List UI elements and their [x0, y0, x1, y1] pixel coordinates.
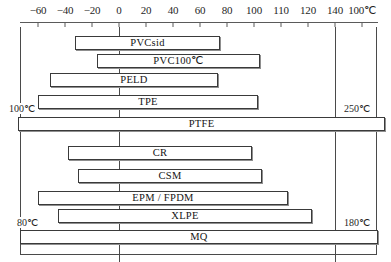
bar-label-9: MQ [21, 231, 377, 243]
xlpe-right-annotation: 180℃ [343, 217, 371, 228]
bar-label-3: TPE [39, 96, 257, 108]
bar-5: CR [68, 146, 252, 160]
bar-4: PTFE [18, 117, 385, 131]
bar-3: TPE [38, 95, 258, 109]
bar-1: PVC100℃ [97, 54, 260, 68]
bar-label-2: PELD [51, 74, 217, 86]
bar-label-6: CSM [79, 170, 261, 182]
bar-8: XLPE [58, 209, 312, 223]
temperature-range-chart: −60−40−20020406080100110120140100℃ PVCsi… [0, 0, 391, 262]
tpe-left-annotation: 100℃ [8, 103, 36, 114]
xlpe-left-annotation: 80℃ [16, 217, 39, 228]
bars-layer: PVCsidPVC100℃PELDTPEPTFECRCSMEPM / FPDMX… [0, 0, 391, 262]
bar-9: MQ [20, 230, 378, 244]
bar-0: PVCsid [75, 36, 220, 50]
bar-label-0: PVCsid [76, 37, 219, 49]
bar-7: EPM / FPDM [38, 191, 288, 205]
bar-label-4: PTFE [19, 118, 384, 130]
ptfe-right-annotation: 250℃ [343, 103, 371, 114]
bar-2: PELD [50, 73, 218, 87]
bar-6: CSM [78, 169, 262, 183]
bar-label-5: CR [69, 147, 251, 159]
bar-label-8: XLPE [59, 210, 311, 222]
bar-label-7: EPM / FPDM [39, 192, 287, 204]
bar-label-1: PVC100℃ [98, 55, 259, 67]
